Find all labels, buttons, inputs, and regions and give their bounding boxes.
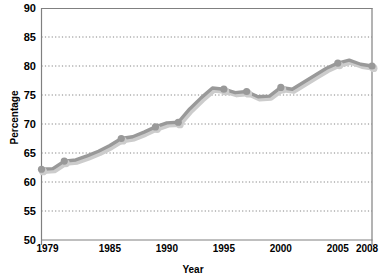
x-tick-label: 1990 xyxy=(156,243,178,254)
line-chart: Percentage Year 908580757065605550 19791… xyxy=(0,0,386,280)
data-point xyxy=(334,60,341,67)
data-point xyxy=(220,86,227,93)
data-point xyxy=(243,88,250,95)
data-point xyxy=(152,123,159,130)
data-series-layer xyxy=(38,60,378,176)
data-point xyxy=(175,119,182,126)
x-tick-label: 2000 xyxy=(270,243,292,254)
data-point xyxy=(38,166,45,173)
data-point xyxy=(277,84,284,91)
x-tick-label: 2005 xyxy=(327,243,349,254)
data-point xyxy=(61,158,68,165)
gridlines xyxy=(42,37,373,211)
data-point xyxy=(118,135,125,142)
data-point xyxy=(368,62,375,69)
x-tick-label: 2008 xyxy=(356,243,378,254)
axis-lines xyxy=(42,8,373,245)
plot-area xyxy=(0,0,386,280)
x-tick-label: 1985 xyxy=(99,243,121,254)
x-tick-label: 1995 xyxy=(213,243,235,254)
x-tick-label: 1979 xyxy=(36,243,58,254)
